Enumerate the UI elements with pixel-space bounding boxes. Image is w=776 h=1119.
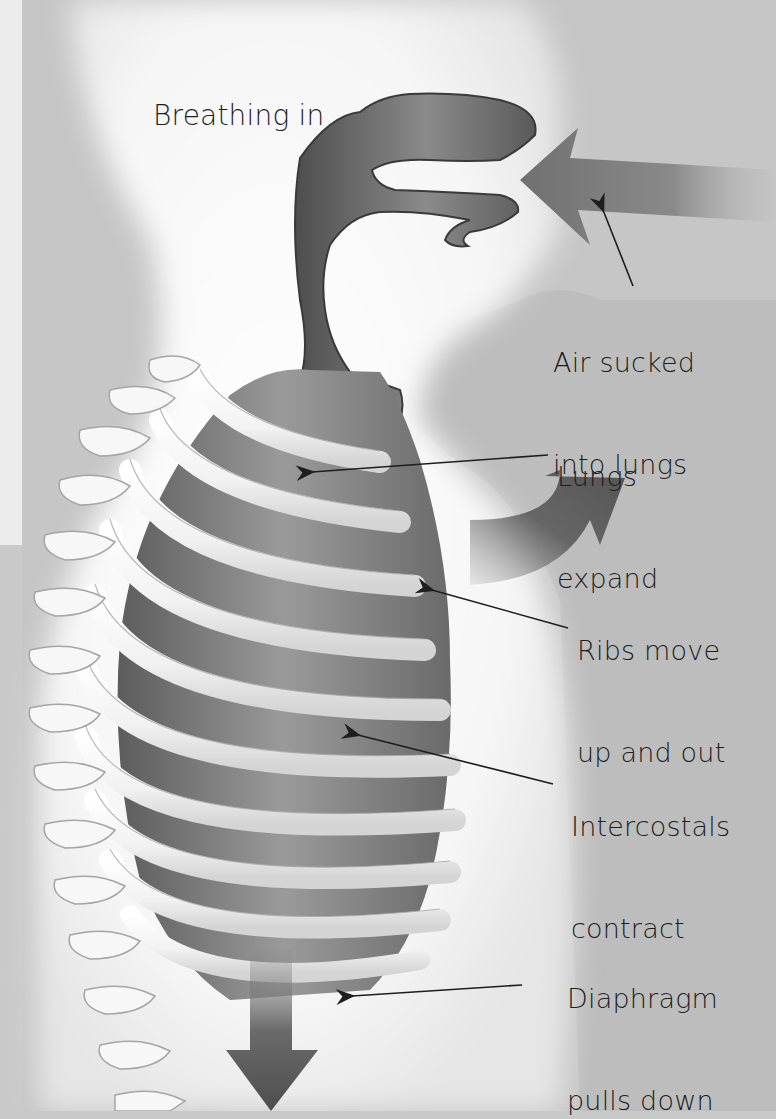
- label-line: Diaphragm: [567, 982, 718, 1016]
- label-line: Lungs: [557, 460, 658, 494]
- label-line: Air sucked: [553, 346, 695, 380]
- diagram-title: Breathing in: [153, 99, 325, 133]
- label-line: pulls down: [567, 1084, 718, 1118]
- label-line: Ribs move: [577, 634, 725, 668]
- label-line: Intercostals: [571, 810, 730, 844]
- left-strip: [0, 0, 22, 545]
- label-diaphragm: Diaphragm pulls down: [567, 914, 718, 1119]
